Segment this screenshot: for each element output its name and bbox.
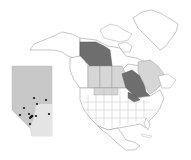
united-states [80, 88, 164, 130]
north-america-map [0, 0, 191, 160]
arctic-archipelago [100, 24, 132, 42]
region-us-north-band [94, 88, 118, 95]
mexico [98, 126, 140, 150]
region-saskatchewan [100, 66, 112, 88]
alaska [30, 32, 80, 58]
region-alberta [88, 66, 100, 88]
greenland [133, 10, 178, 50]
cuba [142, 134, 152, 138]
alberta-inset [12, 66, 52, 136]
atlantic-canada [158, 74, 176, 88]
